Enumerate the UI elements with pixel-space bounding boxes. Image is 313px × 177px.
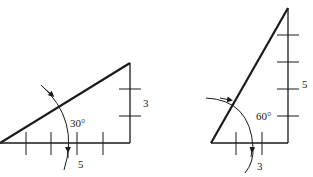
left-arc-arrow-top-icon: [44, 88, 52, 95]
right-arc-arrow-top-icon: [220, 98, 230, 100]
right-vertical-label: 5: [302, 78, 308, 90]
left-hypotenuse: [0, 63, 130, 143]
right-hypotenuse: [211, 8, 288, 143]
diagram-canvas: 30° 5 3 60° 3 5: [0, 0, 313, 177]
left-horizontal-label: 5: [78, 158, 84, 170]
right-triangle: 60° 3 5: [206, 8, 308, 173]
left-vertical-label: 3: [143, 97, 149, 109]
left-rotation-arc: [41, 85, 69, 170]
right-arc-arrow-bottom-icon: [251, 150, 252, 157]
right-horizontal-label: 3: [257, 160, 263, 172]
left-angle-label: 30°: [70, 117, 85, 129]
left-triangle: 30° 5 3: [0, 63, 149, 170]
right-angle-label: 60°: [256, 110, 271, 122]
